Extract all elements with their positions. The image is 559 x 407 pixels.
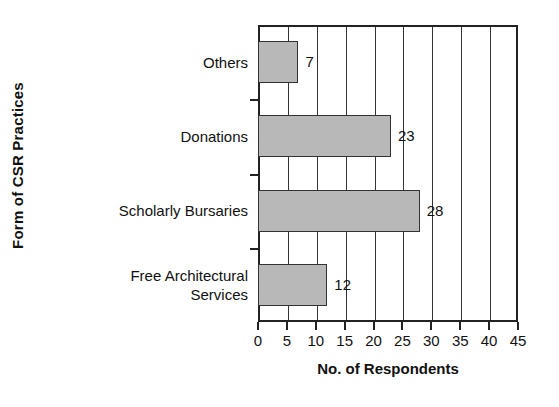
category-label: Others <box>36 53 248 72</box>
x-axis-tick-label: 0 <box>254 332 262 349</box>
x-axis-tick <box>459 322 461 330</box>
x-axis-tick <box>257 322 259 330</box>
x-axis-tick-label: 10 <box>307 332 324 349</box>
bar <box>258 264 327 306</box>
x-axis-tick-label: 25 <box>394 332 411 349</box>
x-axis-tick-label: 30 <box>423 332 440 349</box>
x-axis-tick <box>488 322 490 330</box>
category-label: Scholarly Bursaries <box>36 201 248 220</box>
bar-chart: Form of CSR Practices OthersDonationsSch… <box>0 0 559 407</box>
x-axis-tick <box>517 322 519 330</box>
x-axis-tick <box>430 322 432 330</box>
y-axis-title: Form of CSR Practices <box>0 0 34 330</box>
x-axis-tick <box>344 322 346 330</box>
bar <box>258 41 298 83</box>
x-axis-tick-label: 5 <box>283 332 291 349</box>
bar-value-label: 12 <box>334 276 351 293</box>
x-axis-tick-label: 40 <box>481 332 498 349</box>
x-axis-tick-label: 15 <box>336 332 353 349</box>
y-axis-title-text: Form of CSR Practices <box>9 82 26 249</box>
bar-value-label: 7 <box>305 53 313 70</box>
x-axis-tick <box>401 322 403 330</box>
category-label: Free Architectural Services <box>36 266 248 304</box>
x-axis-tick-label: 35 <box>452 332 469 349</box>
bar <box>258 115 391 157</box>
x-axis-tick-label: 45 <box>510 332 527 349</box>
category-label: Donations <box>36 127 248 146</box>
x-axis-tick <box>315 322 317 330</box>
category-labels: OthersDonationsScholarly BursariesFree A… <box>36 25 254 322</box>
bar-value-label: 23 <box>398 127 415 144</box>
x-axis-tick <box>286 322 288 330</box>
x-axis-tick <box>373 322 375 330</box>
bar-value-label: 28 <box>427 202 444 219</box>
bars-layer: 7232812 <box>258 25 518 322</box>
x-axis-title: No. of Respondents <box>258 360 518 377</box>
x-axis-tick-label: 20 <box>365 332 382 349</box>
bar <box>258 190 420 232</box>
